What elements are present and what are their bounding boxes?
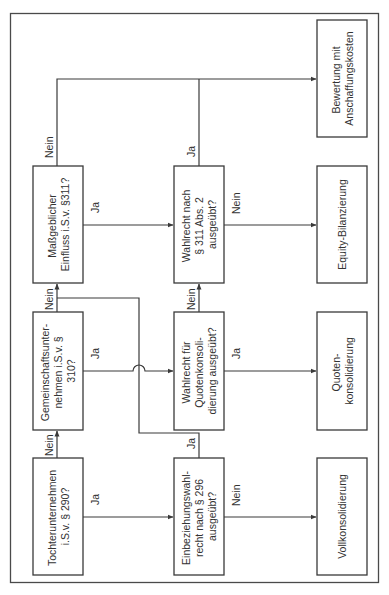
label-einbeziehung-nein: Nein: [230, 484, 242, 506]
node-equity: Equity-Bilanzierung: [317, 166, 367, 283]
flowchart: Ja Nein Nein Ja Ja Nein Ja Nein Ja Nein …: [0, 0, 389, 595]
node-gemeinschaft: Gemeinschaftsunter- nehmen i.S.v. § 310?: [33, 312, 83, 430]
svg-text:Maßgeblicher Einfluss i.: Maßgeblicher Einfluss i.S.v. §311?: [46, 178, 71, 272]
node-text: ausgeübt?: [206, 492, 218, 541]
node-quotenkons: Quoten- konsolidierung: [317, 312, 367, 430]
node-text: Wahlrecht für: [180, 341, 192, 404]
node-text: § 311 Abs. 2: [193, 197, 205, 255]
label-wahl311-ja: Ja: [185, 146, 197, 157]
node-text: 310?: [65, 359, 77, 383]
node-einbeziehung: Einbeziehungswahl- recht nach § 296 ausg…: [174, 458, 224, 575]
label-quotenwahl-nein: Nein: [185, 288, 197, 310]
svg-text:Wahlrecht für Quotenkons: Wahlrecht für Quotenkonsoli- dierung aus…: [180, 327, 218, 414]
node-text: ausgeübt?: [206, 200, 218, 249]
label-quotenwahl-ja: Ja: [230, 348, 242, 359]
node-vollkons: Vollkonsolidierung: [317, 458, 367, 575]
node-text: Quotenkonsoli-: [193, 337, 205, 408]
node-text: Tochterunternehmen: [46, 470, 58, 566]
svg-text:Equity-Bilanzierung: Equity-Bilanzierung: [336, 179, 348, 270]
node-text: Einbeziehungswahl-: [180, 470, 192, 564]
label-einbeziehung-ja: Ja: [185, 438, 197, 449]
label-gemeinschaft-nein: Nein: [43, 288, 55, 310]
node-quotenwahl: Wahlrecht für Quotenkonsoli- dierung aus…: [174, 312, 224, 430]
node-tochter: Tochterunternehmen i.S.v. § 290?: [33, 458, 83, 575]
label-tochter-ja: Ja: [89, 494, 101, 505]
node-text: Quoten-: [330, 353, 342, 391]
label-tochter-nein: Nein: [43, 434, 55, 456]
edge-gemeinschaft-quotenwahl: [83, 365, 173, 371]
node-text: Maßgeblicher: [46, 194, 58, 258]
node-text: Anschaffungskosten: [343, 31, 355, 126]
label-wahl311-nein: Nein: [230, 192, 242, 214]
node-text: Wahlrecht nach: [180, 190, 192, 263]
node-wahl311: Wahlrecht nach § 311 Abs. 2 ausgeübt?: [174, 166, 224, 283]
svg-text:Bewertung mit Anschaffun: Bewertung mit Anschaffungskosten: [330, 31, 355, 126]
node-bewertung: Bewertung mit Anschaffungskosten: [317, 20, 367, 137]
node-text: konsolidierung: [343, 337, 355, 405]
svg-text:Vollkonsolidierung: Vollkonsolidierung: [336, 474, 348, 559]
node-text: dierung ausgeübt?: [206, 327, 218, 414]
node-text: Gemeinschaftsunter-: [39, 323, 51, 421]
node-text: recht nach § 296: [193, 479, 205, 557]
node-text: i.S.v. § 290?: [59, 488, 71, 546]
node-text: Vollkonsolidierung: [336, 474, 348, 559]
node-massgeblich: Maßgeblicher Einfluss i.S.v. §311?: [33, 166, 83, 283]
label-gemeinschaft-ja: Ja: [89, 348, 101, 359]
node-text: Bewertung mit: [330, 46, 342, 113]
label-massgeblich-nein: Nein: [43, 136, 55, 158]
label-massgeblich-ja: Ja: [89, 202, 101, 213]
node-text: Equity-Bilanzierung: [336, 179, 348, 270]
node-text: Einfluss i.S.v. §311?: [59, 178, 71, 272]
node-text: nehmen i.S.v. §: [52, 336, 64, 408]
